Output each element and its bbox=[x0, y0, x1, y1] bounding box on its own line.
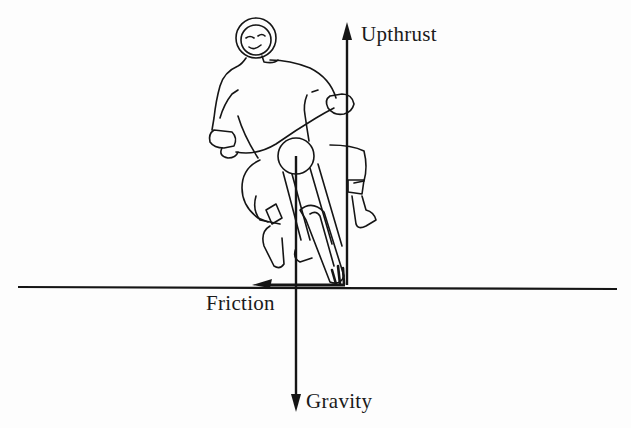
upthrust-label: Upthrust bbox=[361, 24, 437, 45]
friction-label: Friction bbox=[206, 293, 275, 314]
force-diagram: Upthrust Friction Gravity bbox=[0, 0, 631, 428]
arrow-up-icon bbox=[342, 22, 352, 40]
motorcyclist-figure bbox=[210, 18, 377, 284]
arrow-down-icon bbox=[291, 394, 301, 412]
friction-arrow bbox=[252, 279, 345, 288]
ground-line bbox=[18, 287, 617, 289]
diagram-drawing bbox=[0, 0, 631, 428]
upthrust-arrow bbox=[342, 22, 352, 285]
arrow-left-icon bbox=[252, 279, 272, 288]
gravity-label: Gravity bbox=[306, 391, 372, 412]
helmet-icon bbox=[236, 18, 278, 63]
